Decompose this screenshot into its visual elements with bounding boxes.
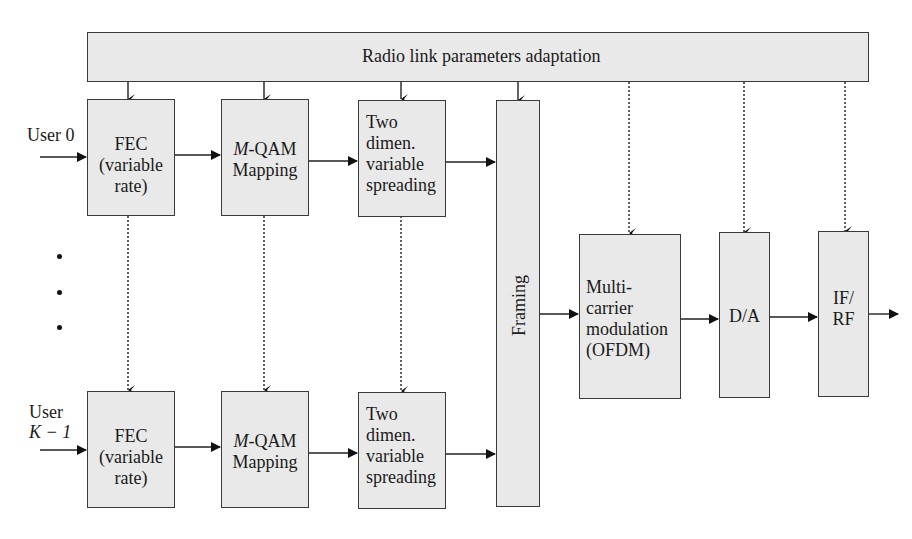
spreading-label: variable [366, 154, 436, 175]
fec-label: rate) [88, 468, 174, 489]
fec-label: FEC [88, 426, 174, 447]
mqam-block-user-0: M-QAM Mapping [221, 99, 309, 216]
spreading-block-user-k: Two dimen. variable spreading [358, 392, 446, 509]
fec-label: rate) [88, 176, 174, 197]
spreading-label: spreading [366, 467, 436, 488]
ofdm-label: Multi- [586, 277, 668, 298]
spreading-label: Two [366, 112, 436, 133]
mqam-label: Mapping [222, 452, 308, 473]
user-0-label: User 0 [27, 125, 75, 146]
mqam-label: -QAM [249, 139, 297, 159]
spreading-label: Two [366, 404, 436, 425]
radio-link-adaptation-block: Radio link parameters adaptation [87, 32, 869, 82]
da-label: D/A [720, 306, 769, 327]
user-k-label: User [29, 402, 63, 423]
ifrf-block: IF/ RF [818, 231, 869, 397]
ifrf-label: IF/ [819, 288, 868, 309]
spreading-label: spreading [366, 175, 436, 196]
da-block: D/A [719, 232, 770, 398]
ifrf-label: RF [819, 309, 868, 330]
user-k-index-label: K − 1 [29, 422, 71, 443]
ellipsis-dot [57, 290, 62, 295]
radio-link-adaptation-label: Radio link parameters adaptation [362, 46, 600, 67]
mqam-italic: M [234, 431, 249, 451]
mqam-label: -QAM [249, 431, 297, 451]
mqam-italic: M [234, 139, 249, 159]
spreading-label: dimen. [366, 133, 436, 154]
fec-block-user-0: FEC (variable rate) [87, 99, 175, 216]
ofdm-label: modulation [586, 319, 668, 340]
ofdm-label: carrier [586, 298, 668, 319]
ofdm-block: Multi- carrier modulation (OFDM) [579, 234, 681, 399]
framing-label: Framing [509, 271, 530, 341]
framing-block: Framing [496, 100, 540, 507]
fec-block-user-k: FEC (variable rate) [87, 391, 175, 508]
spreading-label: dimen. [366, 425, 436, 446]
fec-label: (variable [88, 155, 174, 176]
mqam-block-user-k: M-QAM Mapping [221, 391, 309, 508]
ofdm-label: (OFDM) [586, 340, 668, 361]
mqam-label: Mapping [222, 160, 308, 181]
spreading-block-user-0: Two dimen. variable spreading [358, 100, 446, 217]
fec-label: (variable [88, 447, 174, 468]
fec-label: FEC [88, 134, 174, 155]
ellipsis-dot [57, 254, 62, 259]
spreading-label: variable [366, 446, 436, 467]
ellipsis-dot [57, 325, 62, 330]
